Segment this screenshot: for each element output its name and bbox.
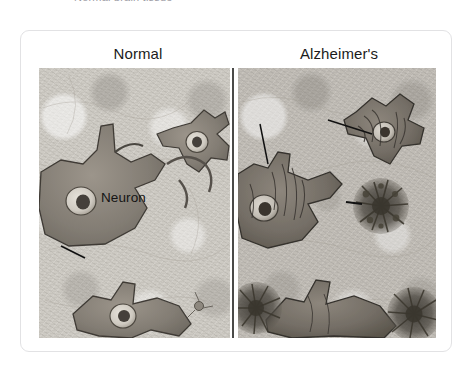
alzheimers-tissue-illustration [238, 68, 436, 338]
leader-line-tangles-left [260, 124, 268, 164]
column-heading-normal: Normal [39, 43, 237, 65]
panel-normal: Neuron [39, 68, 230, 338]
panel-divider [232, 68, 234, 338]
figure-card: Normal Alzheimer's [20, 30, 452, 352]
neuron-bottom-centre [266, 280, 396, 338]
glial-cell [195, 302, 204, 311]
column-headings: Normal Alzheimer's [39, 43, 435, 65]
neuron-main-left [39, 124, 165, 246]
panel-alzheimers: Neurofibrillary tangles Amyloid — plaque… [238, 68, 436, 338]
neuron-bottom [73, 282, 191, 338]
label-neuron: Neuron [101, 190, 146, 206]
amyloid-plaque-bottom-right [387, 287, 436, 338]
column-heading-alzheimers: Alzheimer's [240, 43, 438, 65]
amyloid-plaque-mid-right [353, 178, 409, 234]
panel-group: Neuron [39, 68, 436, 338]
neuron-tangled-mid-left [238, 152, 342, 248]
clipped-top-caption: Normal brain tissue [74, 0, 374, 3]
leader-line-neuron [61, 246, 85, 258]
